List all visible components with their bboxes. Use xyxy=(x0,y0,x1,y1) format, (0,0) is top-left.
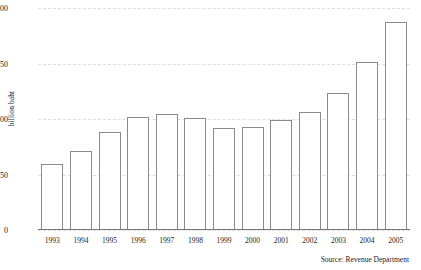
x-axis-tick-label: 2003 xyxy=(331,236,346,245)
x-axis-tick-label: 2001 xyxy=(274,236,289,245)
bar xyxy=(156,114,178,230)
x-axis-tick-label: 1996 xyxy=(131,236,146,245)
x-axis-tick-label: 2004 xyxy=(360,236,375,245)
gridline xyxy=(38,230,410,231)
y-axis-tick-label: 500 xyxy=(0,115,8,124)
bar xyxy=(242,127,264,230)
bar xyxy=(99,132,121,230)
x-axis-tick-label: 2005 xyxy=(388,236,403,245)
y-axis-tick-label: 1000 xyxy=(0,4,8,13)
bar xyxy=(299,112,321,230)
bar xyxy=(385,22,407,230)
y-axis-tick-label: 0 xyxy=(0,226,8,235)
bar xyxy=(356,62,378,230)
bar-chart: billion baht 02505007501000 199319941995… xyxy=(0,0,421,270)
bar xyxy=(270,120,292,230)
bars xyxy=(38,8,410,230)
x-axis-tick-label: 1997 xyxy=(159,236,174,245)
x-axis-tick-label: 2002 xyxy=(302,236,317,245)
bar xyxy=(327,93,349,230)
bar xyxy=(127,117,149,230)
source-note: Source: Revenue Department xyxy=(321,255,409,264)
x-axis-tick-label: 1998 xyxy=(188,236,203,245)
x-axis-line xyxy=(38,229,410,230)
plot-area xyxy=(38,8,410,230)
bar xyxy=(70,151,92,230)
y-axis-tick-label: 250 xyxy=(0,170,8,179)
x-axis-tick-label: 1999 xyxy=(217,236,232,245)
x-axis-tick-label: 1995 xyxy=(102,236,117,245)
bar xyxy=(41,164,63,230)
x-axis-tick-label: 2000 xyxy=(245,236,260,245)
y-axis-title: billion baht xyxy=(7,64,16,154)
y-axis-tick-label: 750 xyxy=(0,59,8,68)
x-axis-tick-label: 1993 xyxy=(45,236,60,245)
x-axis-tick-label: 1994 xyxy=(73,236,88,245)
bar xyxy=(184,118,206,230)
bar xyxy=(213,128,235,230)
